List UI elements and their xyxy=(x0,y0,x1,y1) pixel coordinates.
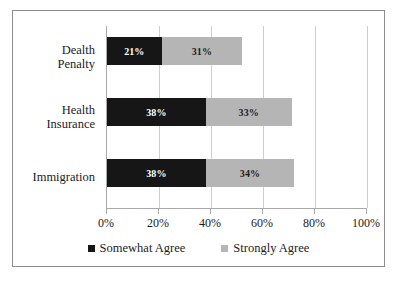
bar-value-label: 38% xyxy=(146,168,166,179)
bar-value-label: 21% xyxy=(124,46,144,57)
bar-value-label: 34% xyxy=(240,168,260,179)
xtick-label-0: 0% xyxy=(81,216,131,231)
xtick-mark-60 xyxy=(262,209,263,214)
xtick-label-60: 60% xyxy=(237,216,287,231)
legend-item-somewhat-agree[interactable]: Somewhat Agree xyxy=(88,241,186,256)
plot-area: 21% 31% 38% 33% 38% 34% xyxy=(106,26,367,209)
category-label-line: Immigration xyxy=(0,170,95,184)
xtick-label-40: 40% xyxy=(185,216,235,231)
chart-frame: Dealth Penalty Health Insurance Immigrat… xyxy=(12,10,385,267)
bar-segment-somewhat-agree[interactable]: 21% xyxy=(107,37,162,65)
xtick-label-20: 20% xyxy=(133,216,183,231)
gridline-80 xyxy=(315,26,316,208)
xtick-mark-0 xyxy=(106,209,107,214)
bar-row-immigration: 38% 34% xyxy=(107,159,294,187)
bar-segment-somewhat-agree[interactable]: 38% xyxy=(107,159,206,187)
xtick-mark-40 xyxy=(210,209,211,214)
xtick-mark-80 xyxy=(314,209,315,214)
legend-label: Strongly Agree xyxy=(233,241,309,256)
bar-segment-strongly-agree[interactable]: 33% xyxy=(206,98,292,126)
legend-item-strongly-agree[interactable]: Strongly Agree xyxy=(221,241,309,256)
xtick-mark-20 xyxy=(158,209,159,214)
xtick-label-80: 80% xyxy=(289,216,339,231)
category-label-dealth-penalty: Dealth Penalty xyxy=(0,43,95,71)
gridline-100 xyxy=(367,26,368,208)
bar-segment-strongly-agree[interactable]: 31% xyxy=(162,37,243,65)
category-label-line: Health xyxy=(0,103,95,117)
bar-segment-strongly-agree[interactable]: 34% xyxy=(206,159,294,187)
xtick-mark-100 xyxy=(366,209,367,214)
bar-segment-somewhat-agree[interactable]: 38% xyxy=(107,98,206,126)
category-label-line: Penalty xyxy=(0,57,95,71)
bar-row-dealth-penalty: 21% 31% xyxy=(107,37,242,65)
xtick-label-100: 100% xyxy=(341,216,391,231)
legend-swatch-icon xyxy=(221,245,228,252)
category-label-line: Insurance xyxy=(0,117,95,131)
bar-value-label: 33% xyxy=(239,107,259,118)
bar-value-label: 38% xyxy=(146,107,166,118)
category-label-health-insurance: Health Insurance xyxy=(0,103,95,131)
chart-legend: Somewhat Agree Strongly Agree xyxy=(13,241,384,256)
legend-swatch-icon xyxy=(88,245,95,252)
bar-row-health-insurance: 38% 33% xyxy=(107,98,292,126)
bar-value-label: 31% xyxy=(192,46,212,57)
category-label-line: Dealth xyxy=(0,43,95,57)
legend-label: Somewhat Agree xyxy=(100,241,186,256)
category-label-immigration: Immigration xyxy=(0,170,95,184)
